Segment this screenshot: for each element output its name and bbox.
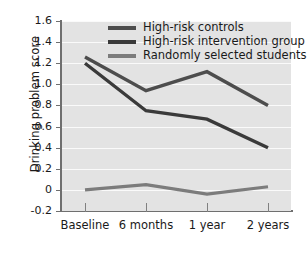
- chart-figure: Drinking problem score 1.61.41.21.00.80.…: [0, 0, 307, 253]
- series-line: [85, 185, 268, 195]
- series-lines: [0, 0, 307, 253]
- series-line: [85, 57, 268, 106]
- series-line: [85, 63, 268, 147]
